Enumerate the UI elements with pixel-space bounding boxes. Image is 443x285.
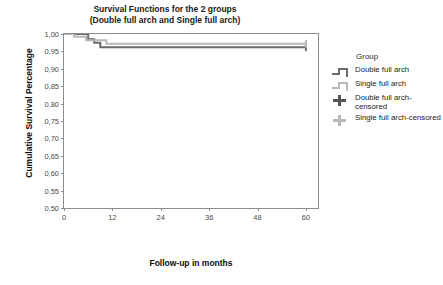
y-tick-mark (61, 104, 64, 105)
y-tick-mark (61, 69, 64, 70)
legend: Group Double full archSingle full archDo… (330, 52, 443, 128)
y-tick-mark (61, 34, 64, 35)
step-line-icon (330, 80, 352, 91)
y-tick-label: 0,90 (6, 64, 64, 73)
x-tick-mark (112, 208, 113, 211)
x-tick-label: 36 (205, 213, 213, 222)
y-tick-mark (61, 156, 64, 157)
chart-title-line1: Survival Functions for the 2 groups (0, 4, 330, 15)
survival-curves (64, 34, 318, 208)
y-tick-label: 0,75 (6, 117, 64, 126)
x-tick-mark (258, 208, 259, 211)
step-line-icon (330, 66, 352, 77)
x-tick-mark (64, 208, 65, 211)
plot-inner (64, 34, 318, 208)
y-tick-mark (61, 86, 64, 87)
legend-item-label: Double full arch-censored (355, 94, 443, 111)
x-tick-label: 0 (62, 213, 66, 222)
x-tick-mark (306, 208, 307, 211)
legend-item[interactable]: Double full arch-censored (330, 94, 443, 111)
plot-area: 1,000,950,900,850,800,750,700,650,600,55… (63, 33, 319, 209)
x-tick-label: 60 (302, 213, 310, 222)
survival-chart-figure: Survival Functions for the 2 groups (Dou… (0, 0, 443, 285)
legend-item[interactable]: Double full arch (330, 66, 443, 77)
y-tick-mark (61, 191, 64, 192)
x-tick-mark (161, 208, 162, 211)
x-tick-label: 48 (253, 213, 261, 222)
y-tick-label: 0,95 (6, 47, 64, 56)
y-tick-label: 0,80 (6, 99, 64, 108)
y-tick-label: 0,55 (6, 186, 64, 195)
y-tick-label: 0,65 (6, 151, 64, 160)
legend-item-label: Double full arch (355, 66, 409, 75)
censored-marker-icon (330, 114, 352, 125)
y-tick-mark (61, 173, 64, 174)
y-tick-label: 0,60 (6, 169, 64, 178)
x-tick-label: 12 (108, 213, 116, 222)
y-tick-mark (61, 121, 64, 122)
legend-item-label: Single full arch-censored (355, 114, 441, 123)
y-tick-label: 0,70 (6, 134, 64, 143)
legend-entries: Double full archSingle full archDouble f… (330, 66, 443, 125)
x-axis-label: Follow-up in months (63, 258, 319, 268)
censored-marker-icon (330, 94, 352, 105)
legend-item[interactable]: Single full arch-censored (330, 114, 443, 125)
y-tick-mark (61, 51, 64, 52)
x-tick-mark (209, 208, 210, 211)
y-tick-label: 0,85 (6, 82, 64, 91)
y-tick-label: 1,00 (6, 30, 64, 39)
chart-title: Survival Functions for the 2 groups (Dou… (0, 4, 330, 25)
legend-title: Group (356, 52, 443, 61)
y-tick-mark (61, 138, 64, 139)
legend-item[interactable]: Single full arch (330, 80, 443, 91)
legend-item-label: Single full arch (355, 80, 406, 89)
x-tick-label: 24 (157, 213, 165, 222)
y-tick-label: 0,50 (6, 204, 64, 213)
chart-title-line2: (Double full arch and Single full arch) (0, 15, 330, 26)
